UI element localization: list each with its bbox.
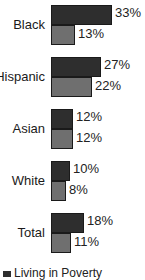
bar-series-0: [51, 5, 112, 25]
bar-series-1: [51, 129, 73, 149]
bar-series-0: [51, 213, 84, 233]
category-label: Total: [18, 225, 45, 240]
bar-series-0: [51, 57, 101, 77]
value-label: 18%: [87, 213, 113, 228]
value-label: 11%: [74, 234, 99, 249]
category-label: Black: [13, 17, 45, 32]
category-label: Hispanic: [0, 69, 45, 84]
value-label: 8%: [69, 182, 88, 197]
bar-group-total: Total18%11%: [0, 213, 145, 255]
value-label: 10%: [73, 161, 99, 176]
bar-group-white: White10%8%: [0, 161, 145, 203]
value-label: 12%: [76, 109, 102, 124]
bar-series-1: [51, 77, 92, 97]
bar-group-hispanic: Hispanic27%22%: [0, 57, 145, 99]
bar-series-1: [51, 233, 71, 253]
bar-series-0: [51, 161, 70, 181]
bar-series-0: [51, 109, 73, 129]
value-label: 22%: [95, 78, 121, 93]
bar-series-1: [51, 181, 66, 201]
category-label: Asian: [12, 121, 45, 136]
legend-label: Living in Poverty: [14, 266, 102, 280]
value-label: 12%: [76, 130, 102, 145]
category-label: White: [12, 173, 45, 188]
legend-swatch-icon: [3, 271, 11, 277]
value-label: 13%: [78, 26, 104, 41]
value-label: 27%: [104, 57, 130, 72]
bar-series-1: [51, 25, 75, 45]
value-label: 33%: [115, 5, 141, 20]
bar-group-asian: Asian12%12%: [0, 109, 145, 151]
legend: Living in Poverty: [3, 266, 102, 280]
bar-group-black: Black33%13%: [0, 5, 145, 47]
